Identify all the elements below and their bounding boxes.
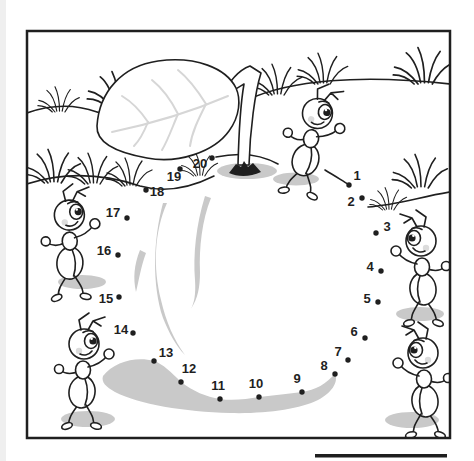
ant-runner-top [271, 77, 354, 204]
dot-4[interactable]: 4 [366, 259, 383, 274]
dot-marker[interactable] [373, 230, 378, 235]
dot-marker[interactable] [299, 389, 304, 394]
dot-16[interactable]: 16 [97, 243, 121, 258]
leaf [97, 60, 239, 160]
dot-label: 18 [150, 184, 164, 199]
dot-marker[interactable] [124, 215, 129, 220]
dot-marker[interactable] [143, 187, 148, 192]
dot-marker[interactable] [217, 396, 222, 401]
dot-marker[interactable] [332, 371, 337, 376]
dot-marker[interactable] [130, 330, 135, 335]
dot-marker[interactable] [116, 294, 121, 299]
dot-marker[interactable] [378, 268, 383, 273]
ground-line-dot1 [325, 170, 348, 184]
dot-13[interactable]: 13 [151, 345, 173, 363]
dot-7[interactable]: 7 [334, 344, 350, 362]
dot-label: 5 [363, 291, 370, 306]
dot-label: 17 [106, 205, 120, 220]
dot-8[interactable]: 8 [320, 358, 337, 376]
dot-3[interactable]: 3 [373, 219, 390, 235]
dot-label: 4 [366, 259, 374, 274]
dot-label: 2 [347, 194, 354, 209]
dot-marker[interactable] [375, 299, 380, 304]
dot-9[interactable]: 9 [293, 371, 304, 394]
ant-lower-left [55, 313, 116, 431]
dot-12[interactable]: 12 [178, 361, 196, 384]
dot-marker[interactable] [359, 195, 364, 200]
dot-marker[interactable] [362, 335, 367, 340]
dot-5[interactable]: 5 [363, 291, 380, 306]
hill-line-mid-left [27, 176, 214, 189]
dot-label: 13 [159, 345, 173, 360]
dot-marker[interactable] [151, 358, 156, 363]
dot-19[interactable]: 19 [167, 166, 183, 184]
dot-15[interactable]: 15 [99, 291, 122, 306]
dot-label: 16 [97, 243, 111, 258]
dot-1[interactable]: 1 [346, 168, 360, 187]
dot-marker[interactable] [178, 379, 183, 384]
dot-2[interactable]: 2 [347, 194, 364, 209]
dot-label: 8 [320, 358, 327, 373]
dot-6[interactable]: 6 [350, 324, 367, 340]
dot-label: 12 [182, 361, 196, 376]
dot-marker[interactable] [345, 357, 350, 362]
bottom-rule [315, 454, 447, 458]
dot-marker[interactable] [256, 394, 261, 399]
dot-label: 10 [249, 376, 263, 391]
apple-highlights [134, 196, 211, 355]
dot-17[interactable]: 17 [106, 205, 130, 220]
dot-label: 14 [114, 322, 129, 337]
ant-upper-right [391, 210, 451, 328]
dot-label: 15 [99, 291, 113, 306]
dot-marker[interactable] [115, 252, 120, 257]
dot-label: 20 [193, 156, 207, 171]
dot-label: 11 [211, 378, 225, 393]
dot-label: 19 [167, 169, 181, 184]
dot-10[interactable]: 10 [249, 376, 263, 399]
dot-marker[interactable] [346, 182, 351, 187]
activity-page: 1234567891011121314151617181920 [0, 0, 474, 461]
dot-label: 3 [383, 219, 390, 234]
dot-18[interactable]: 18 [143, 184, 164, 199]
stem-base [229, 161, 261, 176]
dot-label: 9 [293, 371, 300, 386]
ant-lower-right [385, 322, 453, 440]
dot-14[interactable]: 14 [114, 322, 136, 337]
dot-label: 1 [353, 168, 360, 183]
dot-20[interactable]: 20 [193, 155, 215, 171]
dot-marker[interactable] [209, 155, 214, 160]
puzzle-canvas: 1234567891011121314151617181920 [0, 0, 474, 461]
dot-label: 6 [350, 324, 357, 339]
dot-label: 7 [334, 344, 341, 359]
